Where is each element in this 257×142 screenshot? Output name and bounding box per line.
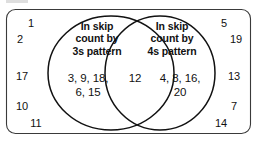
region-values-right-only: 4, 8, 16, 20 <box>137 72 223 99</box>
region-right-line-1: 4, 8, 16, <box>137 72 223 86</box>
outside-value-1: 1 <box>20 17 42 30</box>
outside-value-13: 13 <box>221 70 247 83</box>
set-label-left: In skip count by 3s pattern <box>54 20 140 57</box>
venn-diagram: In skip count by 3s pattern In skip coun… <box>0 0 257 142</box>
outside-value-19: 19 <box>223 33 249 46</box>
region-left-line-2: 6, 15 <box>45 86 131 100</box>
set-label-right: In skip count by 4s pattern <box>129 20 215 57</box>
outside-value-14: 14 <box>208 117 234 130</box>
set-label-right-line-1: In skip <box>129 20 215 32</box>
set-label-left-line-1: In skip <box>54 20 140 32</box>
set-label-right-line-3: 4s pattern <box>129 45 215 57</box>
outside-value-5: 5 <box>213 17 235 30</box>
outside-value-7: 7 <box>223 100 245 113</box>
outside-value-10: 10 <box>9 100 35 113</box>
region-right-line-2: 20 <box>137 86 223 100</box>
outside-value-11: 11 <box>23 117 49 130</box>
set-label-left-line-2: count by <box>54 32 140 44</box>
set-label-right-line-2: count by <box>129 32 215 44</box>
outside-value-2: 2 <box>9 33 31 46</box>
outside-value-17: 17 <box>9 70 35 83</box>
set-label-left-line-3: 3s pattern <box>54 45 140 57</box>
